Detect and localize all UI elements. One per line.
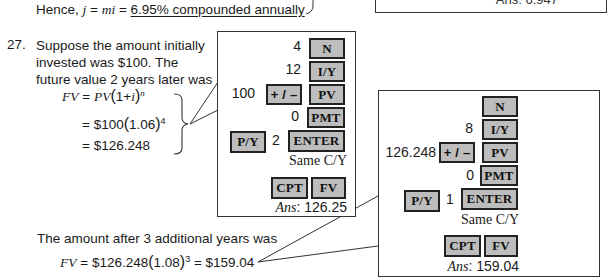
previous-answer: Ans: 6.947: [496, 0, 558, 7]
previous-calculator-box: Ans: 6.947: [375, 0, 607, 13]
hence-text: Hence,: [36, 2, 83, 17]
py-value: 1: [446, 191, 454, 207]
key-fv[interactable]: FV: [311, 177, 346, 199]
term: = $100: [82, 117, 124, 132]
problem-statement: Suppose the amount initially invested wa…: [36, 37, 212, 88]
key-enter[interactable]: ENTER: [461, 188, 518, 210]
statement-line: invested was $100. The: [36, 54, 212, 71]
key-plus-minus[interactable]: + / –: [266, 84, 302, 105]
iy-value: 12: [285, 61, 301, 77]
pv-value: 126.248: [384, 144, 436, 160]
same-cy-note: Same C/Y: [289, 153, 347, 169]
n-value: 4: [293, 38, 301, 54]
key-cpt[interactable]: CPT: [271, 177, 308, 199]
equals: =: [79, 89, 94, 104]
formula-line-2: = $100(1.06)4: [82, 115, 166, 133]
problem-number: 27.: [7, 37, 26, 52]
term: 1.06: [129, 117, 155, 132]
key-fv[interactable]: FV: [484, 235, 518, 257]
term: = $126.248: [77, 255, 149, 270]
calculator-box-2: 3 N 8 I/Y 126.248 + / – PV 0 PMT P/Y 1 E…: [378, 90, 600, 277]
ans-label: Ans: [275, 200, 296, 215]
ans-value: : 126.25: [296, 199, 347, 215]
formula-line-1: FV = PV(1+i)n: [62, 87, 145, 105]
key-enter[interactable]: ENTER: [288, 130, 345, 152]
key-cpt[interactable]: CPT: [444, 235, 481, 257]
key-n[interactable]: N: [309, 38, 345, 59]
conclusion-line: Hence, j = mi = 6.95% compounded annuall…: [36, 2, 305, 18]
term: = $159.04: [190, 255, 254, 270]
exponent: 4: [161, 116, 166, 126]
pv-value: 100: [232, 85, 255, 101]
key-plus-minus[interactable]: + / –: [439, 142, 475, 163]
statement-line: future value 2 years later was: [36, 71, 212, 88]
key-pv[interactable]: PV: [482, 142, 518, 163]
statement-line: Suppose the amount initially: [36, 37, 212, 54]
calculator-box-1: 4 N 12 I/Y 100 + / – PV 0 PMT P/Y 2 ENTE…: [217, 31, 356, 217]
ans-value: : 159.04: [468, 258, 519, 274]
note-text: Same C/Y: [289, 153, 347, 168]
result-underlined: 6.95% compounded annually: [131, 2, 305, 17]
key-iy[interactable]: I/Y: [482, 119, 518, 140]
exponent: n: [140, 88, 145, 98]
py-value: 2: [272, 132, 280, 148]
bottom-statement: The amount after 3 additional years was: [37, 231, 277, 246]
answer-1: Ans: 126.25: [275, 199, 347, 216]
key-py[interactable]: P/Y: [230, 131, 266, 153]
var-mi: mi: [102, 2, 116, 17]
key-pmt[interactable]: PMT: [307, 107, 345, 128]
key-py[interactable]: P/Y: [404, 190, 440, 212]
key-iy[interactable]: I/Y: [309, 61, 345, 82]
fv-symbol: FV: [60, 255, 77, 270]
pv-symbol: PV: [94, 89, 111, 104]
term: 1+: [116, 89, 131, 104]
ans-label: Ans: [447, 259, 468, 274]
pmt-value: 0: [291, 108, 299, 124]
note-text: Same C/Y: [461, 212, 519, 227]
iy-value: 8: [429, 120, 473, 136]
same-cy-note: Same C/Y: [439, 212, 519, 228]
key-pmt[interactable]: PMT: [480, 165, 518, 186]
pmt-value: 0: [459, 167, 474, 183]
answer-2: Ans: 159.04: [429, 258, 519, 275]
term: 1.08: [154, 255, 180, 270]
key-n[interactable]: N: [482, 96, 518, 117]
bottom-formula: FV = $126.248(1.08)3 = $159.04: [60, 253, 254, 271]
key-pv[interactable]: PV: [309, 84, 345, 105]
equals: =: [115, 2, 130, 17]
equals: =: [86, 2, 101, 17]
fv-symbol: FV: [62, 89, 79, 104]
formula-line-3: = $126.248: [82, 138, 150, 153]
